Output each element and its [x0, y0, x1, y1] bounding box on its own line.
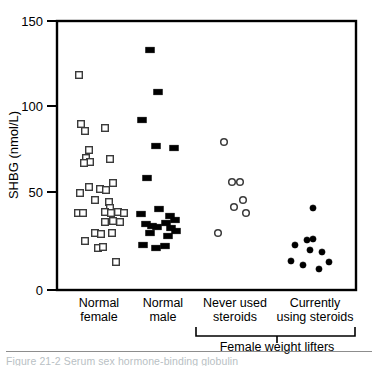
data-point: [76, 72, 83, 79]
data-point: [240, 197, 247, 204]
category-label-never-used-steroids-line2: steroids: [213, 310, 257, 324]
data-point: [152, 143, 161, 148]
data-point: [221, 139, 228, 146]
data-point: [81, 160, 88, 167]
data-point: [77, 190, 84, 197]
scatter-plot: 150 100 50 0 SHBG (nmol/L) Normal female…: [0, 0, 377, 366]
y-axis-ticks: [47, 21, 57, 290]
data-point: [172, 228, 181, 233]
y-axis-title: SHBG (nmol/L): [6, 111, 21, 199]
category-label-currently-using-steroids-line2: using steroids: [276, 310, 353, 324]
category-label-normal-female-line2: female: [80, 310, 118, 324]
data-point: [300, 262, 306, 268]
data-point: [307, 247, 313, 253]
data-point: [161, 243, 170, 248]
data-point: [108, 210, 115, 217]
data-point: [98, 231, 105, 238]
data-point: [146, 47, 155, 52]
data-point: [326, 259, 332, 265]
data-point: [229, 179, 236, 186]
category-label-normal-male-line2: male: [149, 310, 176, 324]
category-label-normal-female-line1: Normal: [79, 296, 119, 310]
data-point: [146, 230, 155, 235]
figure-caption: Figure 21-2 Serum sex hormone-binding gl…: [6, 355, 372, 366]
data-point: [137, 211, 146, 216]
data-point: [110, 218, 117, 225]
group-bracket-path: [196, 327, 355, 336]
figure-container: 150 100 50 0 SHBG (nmol/L) Normal female…: [0, 0, 377, 366]
category-label-currently-using-steroids-line1: Currently: [290, 296, 341, 310]
data-point: [103, 187, 110, 194]
data-point: [80, 210, 87, 217]
category-label-never-used-steroids-line1: Never used: [203, 296, 267, 310]
data-point: [121, 210, 128, 217]
data-point: [107, 156, 114, 163]
data-point: [100, 244, 107, 251]
data-point: [316, 266, 322, 272]
data-point: [102, 219, 109, 226]
data-point: [113, 259, 120, 266]
data-point: [82, 128, 89, 135]
data-point: [162, 220, 171, 225]
caption-divider: [6, 351, 372, 352]
data-point: [319, 249, 325, 255]
data-point: [164, 233, 173, 238]
data-point: [152, 245, 161, 250]
data-point: [109, 230, 116, 237]
y-tick-label-50: 50: [29, 185, 43, 200]
data-point: [231, 204, 238, 211]
data-point: [82, 238, 89, 245]
data-point: [243, 210, 250, 217]
category-label-normal-male-line1: Normal: [143, 296, 183, 310]
data-point: [143, 175, 152, 180]
data-point: [310, 205, 316, 211]
data-point: [215, 230, 222, 237]
data-point: [304, 237, 310, 243]
data-point: [153, 224, 162, 229]
data-point: [86, 147, 93, 154]
data-point: [78, 121, 85, 128]
data-point: [102, 125, 109, 132]
y-tick-label-0: 0: [36, 283, 43, 298]
data-point: [310, 236, 316, 242]
data-point: [288, 258, 294, 264]
data-point: [154, 89, 163, 94]
data-point: [110, 180, 117, 187]
data-point: [139, 242, 148, 247]
data-point: [155, 206, 164, 211]
data-point: [170, 145, 179, 150]
y-tick-label-100: 100: [21, 99, 43, 114]
data-point: [138, 117, 147, 122]
data-point: [237, 179, 244, 186]
data-point: [171, 217, 180, 222]
data-point: [92, 197, 99, 204]
y-tick-label-150: 150: [21, 14, 43, 29]
data-point: [292, 242, 298, 248]
data-point: [86, 184, 93, 191]
data-point: [117, 219, 124, 226]
